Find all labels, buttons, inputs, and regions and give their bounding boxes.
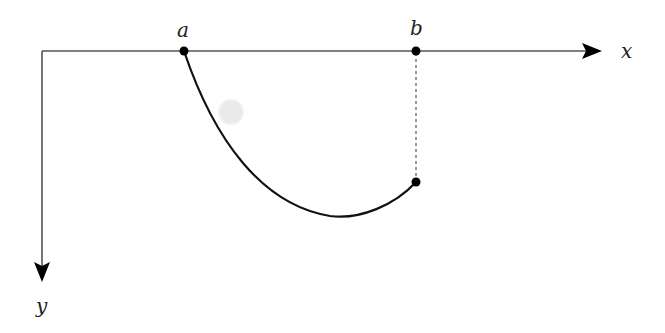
y-axis: y (34, 51, 50, 318)
x-axis-label: x (621, 39, 632, 63)
x-axis: x (42, 39, 632, 63)
point-end (412, 178, 421, 187)
y-axis-label: y (35, 294, 48, 318)
ghost-circle (219, 100, 243, 124)
point-a-label: a (177, 18, 189, 42)
point-b (412, 47, 421, 56)
diagram-canvas: x y a b (0, 0, 665, 333)
curve-a-to-end (184, 51, 416, 217)
point-b-label: b (410, 16, 423, 40)
point-a (180, 47, 189, 56)
